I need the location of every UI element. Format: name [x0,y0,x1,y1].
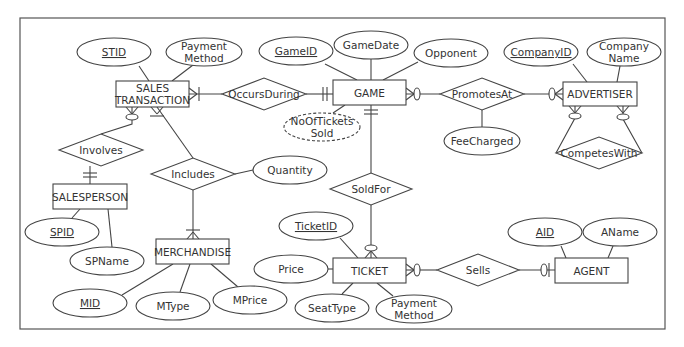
attribute-label: Price [278,263,304,275]
attribute-label: AName [601,226,639,238]
attribute-label: MType [156,300,189,312]
attribute-aname[interactable]: AName [583,218,657,246]
attribute-aid[interactable]: AID [508,218,582,246]
relationship-label: Sells [466,264,490,276]
entity-label: TRANSACTION [114,94,190,106]
key-attribute-label: SPID [50,226,74,238]
attribute-ticket-id[interactable]: TicketID [279,212,353,240]
attribute-label: NoOfTickets [291,115,354,127]
attribute-label: Opponent [425,47,477,59]
attribute-label: Company [599,40,649,52]
attribute-label: SeatType [308,302,356,314]
entity-label: SALESPERSON [52,191,128,203]
attribute-company-id[interactable]: CompanyID [504,38,578,66]
entity-game[interactable]: GAME [333,80,406,105]
attribute-label: GameDate [343,39,399,51]
attribute-price[interactable]: Price [254,255,328,283]
attribute-spid[interactable]: SPID [25,218,99,246]
attribute-label: Method [184,52,223,64]
attribute-label: Payment [391,297,437,309]
entity-ticket[interactable]: TICKET [333,258,406,283]
attribute-mid[interactable]: MID [53,289,127,317]
entity-label: ADVERTISER [567,88,633,100]
attribute-game-id[interactable]: GameID [259,37,333,65]
attribute-label: MPrice [233,294,268,306]
entity-label: SALES [136,82,170,94]
relationship-label: Involves [79,144,122,156]
entity-label: MERCHANDISE [154,246,231,258]
attribute-mprice[interactable]: MPrice [213,286,287,314]
attribute-label: Payment [181,40,227,52]
relationship-label: CompetesWith [561,147,638,159]
relationship-label: SoldFor [351,183,391,195]
entity-agent[interactable]: AGENT [555,258,628,283]
key-attribute-label: GameID [275,45,317,57]
attribute-label: Name [609,52,640,64]
entity-label: TICKET [350,265,388,277]
attribute-ticket-payment-method[interactable]: PaymentMethod [376,295,452,323]
attribute-stid[interactable]: STID [77,38,151,66]
entity-advertiser[interactable]: ADVERTISER [563,82,637,106]
attribute-label: SPName [85,255,129,267]
attribute-label: Quantity [267,164,312,176]
attribute-spname[interactable]: SPName [70,247,144,275]
attribute-seat-type[interactable]: SeatType [295,294,369,322]
attribute-company-name[interactable]: CompanyName [587,38,661,66]
entity-label: GAME [354,87,385,99]
relationship-label: OccursDuring [228,88,300,100]
attribute-quantity[interactable]: Quantity [253,156,327,184]
er-diagram: STIDPaymentMethodGameIDGameDateOpponentN… [0,0,684,347]
entity-merchandise[interactable]: MERCHANDISE [154,239,231,264]
entity-label: AGENT [573,265,610,277]
entity-salesperson[interactable]: SALESPERSON [52,184,128,209]
attribute-label: FeeCharged [451,135,514,147]
key-attribute-label: TicketID [294,220,337,232]
key-attribute-label: AID [536,226,554,238]
attribute-st-payment-method[interactable]: PaymentMethod [166,38,242,66]
attribute-fee-charged[interactable]: FeeCharged [444,127,520,155]
entity-sales-transaction[interactable]: SALESTRANSACTION [114,81,190,107]
attribute-label: Method [394,309,433,321]
relationship-label: Includes [171,168,215,180]
attribute-no-of-tickets-sold[interactable]: NoOfTicketsSold [284,113,360,141]
key-attribute-label: CompanyID [510,46,571,58]
relationship-label: PromotesAt [452,88,512,100]
attribute-opponent[interactable]: Opponent [414,39,488,67]
attribute-mtype[interactable]: MType [136,292,210,320]
key-attribute-label: MID [80,297,100,309]
attribute-label: Sold [311,127,334,139]
key-attribute-label: STID [102,46,126,58]
attribute-game-date[interactable]: GameDate [334,31,408,59]
